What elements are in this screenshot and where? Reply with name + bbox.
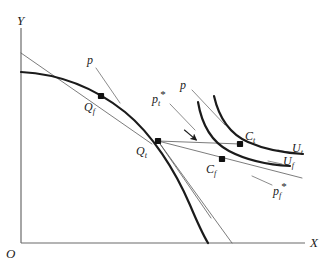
points-group: [98, 93, 243, 162]
label-pt-star: pt*: [152, 89, 166, 109]
point-cf: [219, 156, 225, 162]
diagram-vector-layer: [0, 0, 329, 270]
label-uf: Uf: [283, 155, 294, 171]
curve-indifference-curve-free: [198, 102, 290, 166]
curve-ppf: [21, 72, 208, 243]
diagram-canvas: QfQtCtCfYXOpppt*pf*UtUf: [0, 0, 329, 270]
label-point-qf: Qf: [84, 101, 95, 117]
label-origin: O: [6, 247, 15, 260]
leader-p-qt: [192, 90, 225, 125]
label-pf-star: pf*: [273, 181, 287, 201]
point-qt: [155, 138, 161, 144]
label-p-left: p: [87, 54, 93, 66]
label-point-cf: Cf: [206, 163, 216, 179]
label-p-right: p: [180, 79, 186, 91]
point-ct: [237, 141, 243, 147]
curve-indifference-curve-tariff: [214, 96, 303, 154]
leader-pt-star: [170, 104, 195, 130]
label-y-axis: Y: [17, 14, 24, 27]
arrow-group: [184, 130, 196, 140]
label-point-qt: Qt: [136, 145, 147, 161]
leader-pf-star: [252, 176, 272, 185]
point-qf: [98, 93, 104, 99]
trade-line-qt-ct: [158, 141, 240, 144]
trade-direction-arrow: [184, 130, 196, 140]
axes-group: [21, 28, 305, 243]
label-point-ct: Ct: [245, 130, 255, 146]
price-lines-group: [21, 53, 302, 243]
leader-lines-group: [96, 68, 292, 185]
label-x-axis: X: [310, 236, 318, 249]
